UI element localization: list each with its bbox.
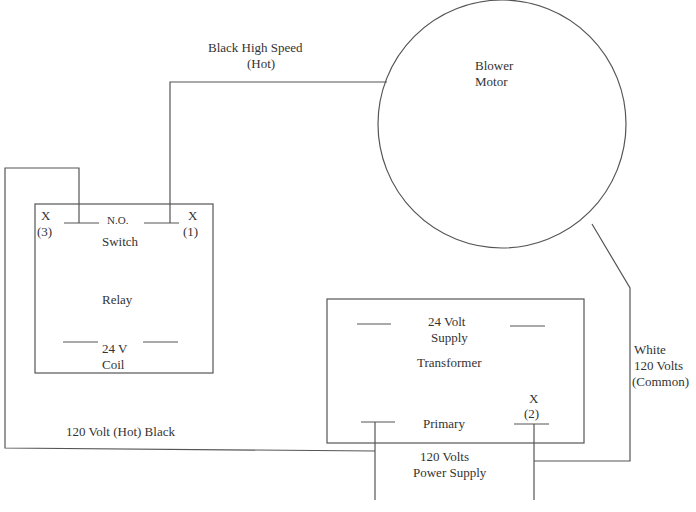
label-blower: Blower bbox=[475, 58, 513, 74]
label-hot-black: 120 Volt (Hot) Black bbox=[66, 424, 175, 440]
relay-terminal-3-number: (3) bbox=[37, 224, 52, 240]
wire-black-high-speed bbox=[170, 82, 387, 223]
label-motor: Motor bbox=[475, 74, 508, 90]
label-high-speed-hot: (Hot) bbox=[247, 56, 275, 72]
label-normally-open: N.O. bbox=[107, 212, 128, 228]
label-primary: Primary bbox=[423, 416, 465, 432]
label-relay: Relay bbox=[102, 292, 132, 308]
relay-terminal-1-mark: X bbox=[188, 208, 197, 224]
label-power-supply: Power Supply bbox=[413, 465, 486, 481]
label-transformer: Transformer bbox=[417, 355, 482, 371]
transformer-terminal-2-number: (2) bbox=[524, 406, 539, 422]
label-switch: Switch bbox=[102, 234, 138, 250]
wire-white-common bbox=[534, 224, 630, 461]
transformer-terminal-2-mark: X bbox=[529, 391, 538, 407]
relay-terminal-1-number: (1) bbox=[183, 224, 198, 240]
label-24-volt: 24 Volt bbox=[428, 314, 465, 330]
label-coil-voltage: 24 V bbox=[102, 341, 127, 357]
label-coil: Coil bbox=[102, 357, 124, 373]
label-supply: Supply bbox=[431, 330, 468, 346]
label-white: White bbox=[634, 342, 666, 358]
relay-terminal-3-mark: X bbox=[41, 208, 50, 224]
label-common: (Common) bbox=[632, 374, 689, 390]
blower-motor-circle bbox=[378, 0, 626, 248]
label-120-volts: 120 Volts bbox=[420, 449, 469, 465]
label-120-volts-common: 120 Volts bbox=[634, 358, 683, 374]
label-high-speed: Black High Speed bbox=[208, 40, 303, 56]
